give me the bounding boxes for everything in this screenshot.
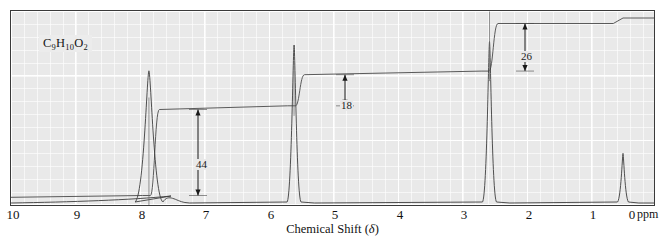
x-tick-8: 8 — [139, 207, 146, 223]
x-axis-tick-labels: 109876543210 — [10, 207, 655, 223]
x-tick-1: 1 — [590, 207, 597, 223]
integration-arrowhead — [195, 110, 200, 116]
axis-title-prefix: Chemical Shift ( — [286, 222, 369, 236]
integration-arrowhead — [195, 190, 200, 196]
spectrum-trace-svg — [11, 11, 654, 205]
spectrum-plot-area: C9H10O2 44 18 26 — [10, 10, 655, 206]
ppm-unit-label: ppm — [637, 207, 658, 222]
spectrum-trace — [11, 42, 654, 203]
integral-value-aromatic: 44 — [195, 159, 208, 170]
integral-value-ch3: 26 — [520, 51, 533, 62]
integration-arrowhead — [522, 23, 527, 29]
integration-arrowhead — [522, 65, 527, 71]
formula-subscript: 10 — [65, 42, 74, 52]
nmr-spectrum-figure: C9H10O2 44 18 26 109876543210 ppm Chemic… — [0, 0, 665, 237]
x-tick-0: 0 — [629, 207, 636, 223]
x-tick-6: 6 — [268, 207, 275, 223]
integration-trace — [11, 18, 654, 197]
axis-title-suffix: ) — [375, 222, 379, 236]
formula-element: O — [74, 36, 83, 50]
x-tick-9: 9 — [74, 207, 81, 223]
molecular-formula-label: C9H10O2 — [39, 35, 92, 52]
x-tick-5: 5 — [332, 207, 339, 223]
x-tick-7: 7 — [203, 207, 210, 223]
formula-element: H — [56, 36, 65, 50]
integral-value-och2: 18 — [340, 100, 353, 111]
formula-subscript: 9 — [52, 42, 56, 52]
x-tick-2: 2 — [526, 207, 533, 223]
formula-subscript: 2 — [83, 42, 87, 52]
x-tick-10: 10 — [7, 207, 20, 223]
x-tick-3: 3 — [461, 207, 468, 223]
integration-arrowhead — [342, 75, 347, 81]
x-tick-4: 4 — [397, 207, 404, 223]
formula-element: C — [43, 36, 52, 50]
x-axis-title: Chemical Shift (δ) — [0, 222, 665, 237]
